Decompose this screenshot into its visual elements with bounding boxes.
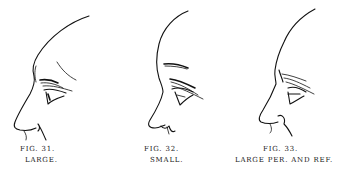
figure-33: FIG. 33. LARGE PER. AND REF. bbox=[230, 0, 353, 177]
figure-32-label: SMALL. bbox=[150, 156, 183, 164]
figure-32-number: FIG. 32. bbox=[144, 145, 179, 153]
profile-face-large-icon bbox=[0, 0, 120, 140]
profile-face-small-icon bbox=[115, 0, 230, 140]
figure-32: FIG. 32. SMALL. bbox=[115, 0, 230, 177]
figure-33-number: FIG. 33. bbox=[263, 145, 298, 153]
figure-33-label: LARGE PER. AND REF. bbox=[235, 156, 333, 164]
figure-31: FIG. 31. LARGE. bbox=[0, 0, 120, 177]
figure-31-label: LARGE. bbox=[25, 156, 58, 164]
figure-31-number: FIG. 31. bbox=[20, 145, 55, 153]
profile-face-large-per-ref-icon bbox=[230, 0, 353, 140]
